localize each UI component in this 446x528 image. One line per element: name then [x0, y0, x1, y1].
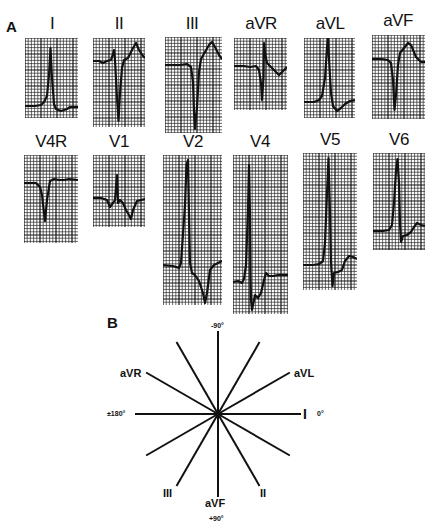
axis-lead-label-i: I: [303, 406, 307, 422]
axis-ray-210: [146, 373, 218, 415]
axis-lead-label-iii: III: [163, 487, 172, 499]
axis-ray-60: [218, 414, 260, 486]
axis-ray-30: [218, 414, 290, 456]
axis-lead-label-ii: II: [260, 487, 266, 499]
axis-lead-label-avl: aVL: [294, 367, 314, 379]
axis-lead-label-avf: aVF: [205, 497, 225, 509]
axis-degree-label-minus-90: -90°: [211, 322, 224, 329]
hexaxial-reference-diagram: [0, 0, 446, 528]
axis-ray-150: [146, 414, 218, 456]
axis-degree-label-zero: 0°: [317, 410, 324, 417]
axis-ray-240: [177, 342, 219, 414]
axis-ray-300: [218, 342, 260, 414]
axis-degree-label-pm-180: ±180°: [107, 410, 125, 417]
axis-lead-label-avr: aVR: [120, 367, 141, 379]
axis-ray-330: [218, 373, 290, 415]
axis-center-dot: [215, 411, 221, 417]
axis-degree-label-plus-90: +90°: [209, 515, 224, 522]
axis-ray-120: [177, 414, 219, 486]
